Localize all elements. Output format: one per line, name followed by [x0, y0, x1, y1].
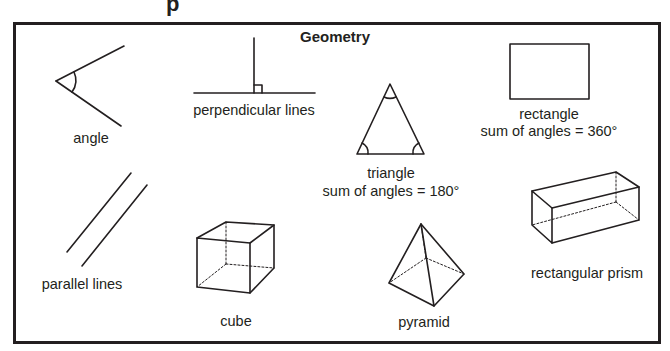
geometry-canvas [0, 0, 670, 351]
pyramid-shape [389, 224, 464, 306]
pyramid-label: pyramid [398, 313, 450, 331]
triangle-label: triangle [367, 164, 415, 182]
parallel-lines-shape [67, 173, 147, 266]
rectangle-angle-sum: sum of angles = 360° [481, 122, 618, 140]
cube-shape [197, 222, 274, 293]
rectangular-prism-label: rectangular prism [531, 264, 643, 282]
perpendicular-lines-label: perpendicular lines [193, 101, 315, 119]
triangle-shape [357, 84, 424, 154]
parallel-lines-label: parallel lines [42, 275, 123, 293]
rectangle-label: rectangle [519, 105, 579, 123]
angle-shape [56, 46, 124, 126]
rectangular-prism-shape [532, 172, 639, 243]
triangle-angle-sum: sum of angles = 180° [323, 182, 460, 200]
cube-label: cube [220, 312, 251, 330]
angle-label: angle [73, 129, 108, 147]
perpendicular-lines-shape [194, 38, 315, 93]
rectangle-shape [510, 44, 589, 99]
